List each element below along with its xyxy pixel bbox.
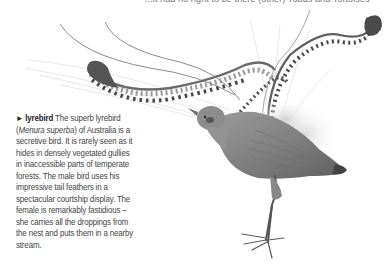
caption-marker: ► xyxy=(16,114,23,123)
figure-caption: ► lyrebird The superb lyrebird (Menura s… xyxy=(16,113,137,251)
scientific-name: Menura superba xyxy=(19,125,75,135)
caption-text-2: ) of Australia is a secretive bird. It i… xyxy=(16,125,133,250)
caption-term: lyrebird xyxy=(25,113,53,123)
